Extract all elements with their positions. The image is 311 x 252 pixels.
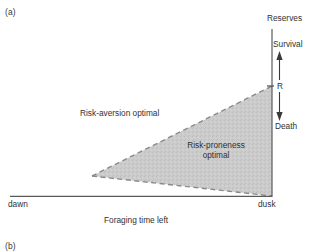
x-axis-title: Foraging time left — [104, 215, 168, 225]
death-arrow-head-icon — [276, 112, 282, 121]
y-axis-title: Reserves — [267, 13, 302, 23]
risk-proneness-region-label-line1: Risk-proneness — [180, 140, 252, 150]
risk-proneness-region-label-line2: optimal — [180, 150, 252, 160]
figure-panel-a: (a) Reserves Survival — [0, 0, 311, 252]
panel-label-b: (b) — [5, 241, 16, 251]
survival-label: Survival — [273, 39, 303, 49]
death-label: Death — [275, 121, 297, 131]
survival-arrow-head-icon — [276, 51, 282, 60]
x-axis-start-label: dawn — [8, 199, 28, 209]
risk-aversion-region-label: Risk-aversion optimal — [80, 108, 159, 118]
x-axis-end-label: dusk — [258, 199, 276, 209]
r-threshold-label: R — [277, 81, 283, 91]
